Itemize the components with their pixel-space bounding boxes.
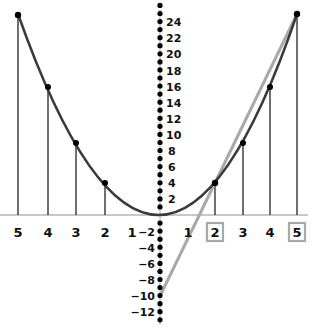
y-label: 12: [166, 113, 181, 126]
x-label: 2: [100, 225, 109, 240]
y-label: 10: [166, 129, 182, 142]
parabola-diagram: 5 4 3 2 1 1 2 3 4 5 24 22 20 18 16 14 12…: [0, 0, 317, 332]
x-labels-positive: 1 2 3 4 5: [183, 225, 301, 240]
x-label: 5: [292, 225, 301, 240]
y-label: −2: [138, 226, 155, 239]
x-labels-negative: 5 4 3 2 1: [13, 225, 136, 240]
y-label: −8: [138, 274, 155, 287]
y-label: −10: [130, 290, 155, 303]
y-label: 16: [166, 81, 182, 94]
parabola-curve: [18, 14, 297, 215]
y-label: 20: [166, 48, 182, 61]
x-label: 3: [71, 225, 80, 240]
y-label: −12: [130, 306, 155, 319]
y-label: 2: [168, 193, 176, 206]
y-label: −6: [138, 258, 155, 271]
y-labels-positive: 24 22 20 18 16 14 12 10 8 6 4 2: [166, 16, 182, 206]
x-label: 5: [13, 225, 22, 240]
x-label: 3: [238, 225, 247, 240]
y-label: 4: [168, 177, 176, 190]
x-label: 4: [265, 225, 274, 240]
y-label: −4: [138, 242, 155, 255]
x-label: 1: [183, 225, 192, 240]
y-label: 18: [166, 65, 181, 78]
x-label: 2: [210, 225, 219, 240]
x-label: 4: [43, 225, 52, 240]
y-label: 6: [168, 161, 176, 174]
y-label: 14: [166, 97, 182, 110]
y-label: 8: [168, 145, 176, 158]
x-label: 1: [127, 225, 136, 240]
y-label: 24: [166, 16, 182, 29]
y-label: 22: [166, 32, 181, 45]
